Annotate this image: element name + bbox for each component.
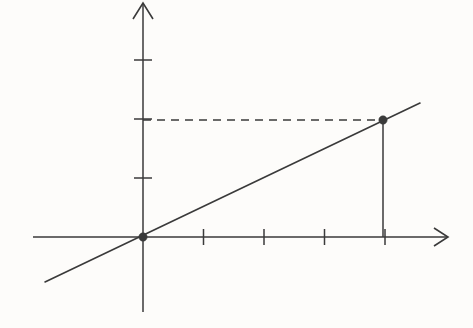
origin-point: [139, 233, 147, 241]
coordinate-plane-plot: [0, 0, 473, 328]
plot-background: [0, 0, 473, 328]
marked-point: [379, 116, 387, 124]
figure-canvas: [0, 0, 473, 328]
